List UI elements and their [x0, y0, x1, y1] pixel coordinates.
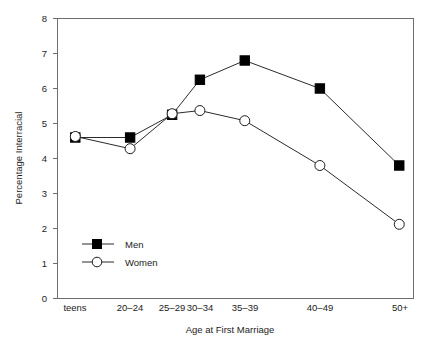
x-tick-label-35-39: 35–39 [232, 302, 258, 313]
data-point-women-30-34 [195, 106, 205, 116]
legend-marker-men-square-icon [93, 240, 102, 249]
y-tick-label-3: 3 [42, 188, 47, 199]
y-tick-label-0: 0 [42, 293, 47, 304]
chart-svg: 8 7 6 5 4 3 2 1 0 Percentage Interracial… [0, 0, 434, 349]
data-point-men-50- [395, 161, 404, 170]
y-tick-label-4: 4 [42, 153, 47, 164]
x-tick-label-50plus: 50+ [392, 302, 409, 313]
x-tick-label-40-49: 40–49 [307, 302, 333, 313]
y-tick-label-6: 6 [42, 83, 47, 94]
y-axis-title: Percentage Interracial [13, 112, 24, 205]
x-tick-label-20-24: 20–24 [117, 302, 143, 313]
legend-label-women: Women [125, 257, 158, 268]
data-point-men-35-39 [240, 56, 249, 65]
data-point-women-teens [70, 131, 80, 141]
legend-marker-women-circle-icon [92, 257, 102, 267]
chart-background [0, 0, 434, 349]
data-point-men-40-49 [315, 84, 324, 93]
x-tick-label-teens: teens [63, 302, 86, 313]
legend-label-men: Men [125, 239, 143, 250]
data-point-men-20-24 [125, 133, 134, 142]
chart-figure: 8 7 6 5 4 3 2 1 0 Percentage Interracial… [0, 0, 434, 349]
x-tick-label-25-29: 25–29 [159, 302, 185, 313]
data-point-women-20-24 [125, 144, 135, 154]
y-tick-label-2: 2 [42, 223, 47, 234]
data-point-women-35-39 [240, 116, 250, 126]
y-tick-label-5: 5 [42, 118, 47, 129]
data-point-women-25-29 [167, 109, 177, 119]
data-point-women-40-49 [315, 161, 325, 171]
y-tick-label-1: 1 [42, 258, 47, 269]
x-tick-label-30-34: 30–34 [187, 302, 213, 313]
y-tick-label-8: 8 [42, 13, 47, 24]
y-tick-label-7: 7 [42, 48, 47, 59]
data-point-women-50- [394, 219, 404, 229]
data-point-men-30-34 [195, 75, 204, 84]
x-axis-title: Age at First Marriage [186, 324, 275, 335]
y-axis-tick-labels: 8 7 6 5 4 3 2 1 0 [42, 13, 47, 304]
